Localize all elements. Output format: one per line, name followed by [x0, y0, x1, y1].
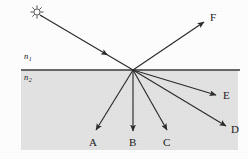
- incident-ray-direction-arrow: [100, 49, 109, 58]
- incident-ray: [40, 15, 133, 70]
- ray-label-f: F: [210, 11, 216, 23]
- ray-label-c: C: [163, 136, 170, 148]
- ray-label-d: D: [231, 123, 239, 135]
- ray-label-b: B: [129, 136, 136, 148]
- ray-diagram-figure: FEDCBA n1 n2: [0, 0, 248, 159]
- ray-label-a: A: [89, 136, 97, 148]
- ray-diagram-canvas: FEDCBA n1 n2: [0, 0, 248, 159]
- refractive-index-n1-label: n1: [24, 51, 32, 62]
- ray-label-e: E: [223, 89, 230, 101]
- reflected-ray-f: [133, 22, 204, 70]
